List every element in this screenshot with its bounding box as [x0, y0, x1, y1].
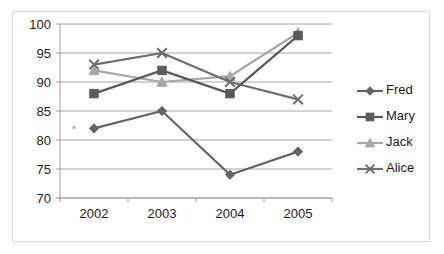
series-alice: [89, 48, 303, 104]
series-lines: [89, 28, 303, 180]
legend-label: Alice: [386, 160, 414, 175]
data-point-marker-square: [226, 89, 234, 97]
legend-label: Fred: [386, 82, 413, 97]
data-point-marker-square: [90, 89, 98, 97]
x-axis-tick-label: 2003: [148, 206, 177, 221]
y-axis-tick-label: 80: [37, 133, 51, 148]
axes: [56, 24, 332, 202]
chart-legend: FredMaryJackAlice: [357, 82, 415, 175]
series-line-mary: [94, 36, 298, 94]
series-jack: [89, 28, 303, 87]
data-point-marker-square: [158, 66, 166, 74]
y-axis-tick-labels: 707580859095100: [29, 17, 51, 206]
y-axis-tick-label: 75: [37, 162, 51, 177]
series-fred: [89, 106, 302, 179]
chart-container: 707580859095100 2002200320042005 FredMar…: [0, 0, 444, 254]
y-axis-tick-label: 85: [37, 104, 51, 119]
stray-dot-icon: [72, 126, 75, 129]
stray-dot-artifact: [72, 126, 75, 129]
y-axis-tick-label: 95: [37, 46, 51, 61]
y-axis-tick-label: 100: [29, 17, 51, 32]
data-point-marker-diamond: [293, 147, 302, 156]
series-line-jack: [94, 33, 298, 82]
legend-label: Jack: [386, 134, 413, 149]
x-axis-tick-labels: 2002200320042005: [80, 206, 313, 221]
series-mary: [90, 31, 302, 97]
legend-item-mary[interactable]: Mary: [357, 108, 415, 123]
data-point-marker-diamond: [89, 124, 98, 133]
legend-item-alice[interactable]: Alice: [357, 160, 414, 175]
legend-item-jack[interactable]: Jack: [357, 134, 413, 149]
line-chart: 707580859095100 2002200320042005 FredMar…: [13, 12, 429, 241]
gridlines: [60, 24, 332, 198]
chart-frame: 707580859095100 2002200320042005 FredMar…: [12, 11, 430, 242]
data-point-marker-square: [366, 113, 374, 121]
data-point-marker-diamond: [366, 87, 374, 95]
data-point-marker-square: [294, 31, 302, 39]
series-line-fred: [94, 111, 298, 175]
y-axis-tick-label: 90: [37, 75, 51, 90]
x-axis-tick-label: 2002: [80, 206, 109, 221]
legend-item-fred[interactable]: Fred: [357, 82, 413, 97]
y-axis-tick-label: 70: [37, 191, 51, 206]
legend-label: Mary: [386, 108, 415, 123]
x-axis-tick-label: 2005: [284, 206, 313, 221]
x-axis-tick-label: 2004: [216, 206, 245, 221]
